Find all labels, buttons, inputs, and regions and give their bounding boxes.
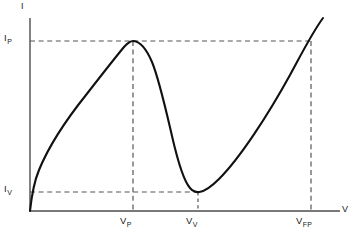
iv-curve bbox=[30, 18, 323, 211]
tick-label-v-valley: VV bbox=[186, 216, 197, 226]
tick-label-v-forward-peak-base: V bbox=[296, 215, 303, 226]
tick-label-v-forward-peak: VFP bbox=[296, 216, 312, 226]
tick-label-i-valley: IV bbox=[4, 184, 12, 194]
tick-label-v-valley-sub: V bbox=[193, 221, 198, 228]
tick-label-v-forward-peak-sub: FP bbox=[303, 221, 312, 228]
tick-label-i-peak-sub: P bbox=[7, 38, 12, 45]
tick-label-v-peak-sub: P bbox=[127, 221, 132, 228]
tick-label-v-valley-base: V bbox=[186, 215, 193, 226]
tick-label-i-peak: IP bbox=[4, 33, 12, 43]
y-axis-label: I bbox=[21, 2, 24, 11]
plot-canvas bbox=[0, 0, 353, 236]
tick-label-v-peak: VP bbox=[120, 216, 131, 226]
x-axis-label: V bbox=[342, 205, 348, 214]
tick-label-i-valley-sub: V bbox=[7, 189, 12, 196]
iv-characteristic-figure: I V IP IV VP VV VFP bbox=[0, 0, 353, 236]
tick-label-v-peak-base: V bbox=[120, 215, 127, 226]
